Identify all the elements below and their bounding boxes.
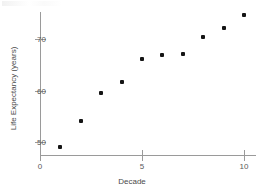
x-tick-mark bbox=[244, 150, 245, 161]
y-axis-title: Life Expectancy (years) bbox=[9, 29, 18, 149]
data-point bbox=[99, 91, 103, 95]
x-axis-line bbox=[40, 155, 256, 156]
y-tick-label: 50 bbox=[28, 138, 46, 147]
data-point bbox=[140, 57, 144, 61]
y-tick-label: 70 bbox=[28, 35, 46, 44]
x-tick-mark bbox=[40, 150, 41, 161]
data-point bbox=[181, 52, 185, 56]
chart-plot-area: 506070 0510 Life Expectancy (years) Deca… bbox=[0, 0, 264, 191]
scatter-plot-screenshot: 506070 0510 Life Expectancy (years) Deca… bbox=[0, 0, 264, 191]
data-point bbox=[58, 145, 62, 149]
y-tick-label: 60 bbox=[28, 87, 46, 96]
data-point bbox=[120, 80, 124, 84]
x-tick-label: 10 bbox=[234, 162, 254, 171]
data-point bbox=[222, 26, 226, 30]
data-point bbox=[160, 53, 164, 57]
scan-artifact bbox=[2, 1, 62, 6]
x-tick-mark bbox=[142, 150, 143, 161]
x-tick-label: 5 bbox=[132, 162, 152, 171]
data-point bbox=[79, 119, 83, 123]
data-point bbox=[201, 35, 205, 39]
data-point bbox=[242, 13, 246, 17]
x-tick-label: 0 bbox=[30, 162, 50, 171]
y-axis-line bbox=[40, 12, 41, 156]
x-axis-title: Decade bbox=[0, 177, 264, 186]
